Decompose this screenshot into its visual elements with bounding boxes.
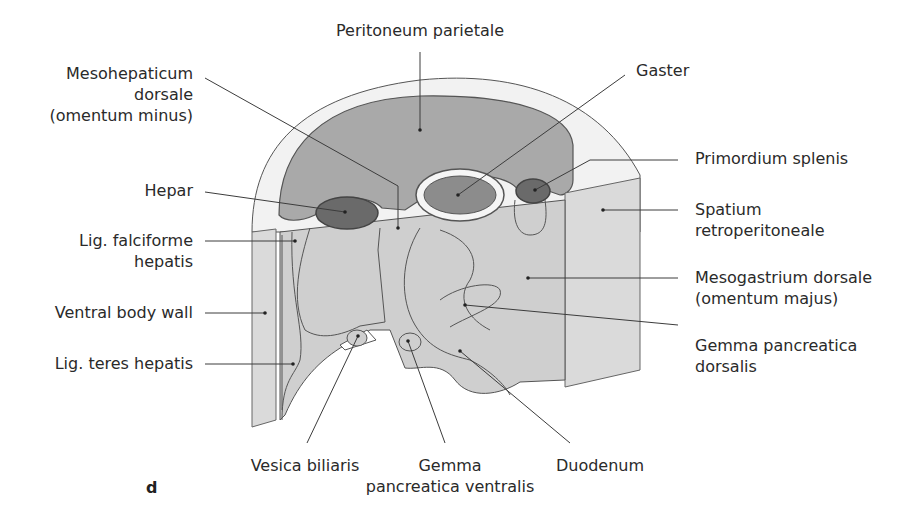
ventral-pancreatic-bud — [399, 333, 421, 351]
label-gemma-ventralis-line1: Gemma — [355, 455, 545, 476]
label-peritoneum-parietale: Peritoneum parietale — [320, 20, 520, 41]
label-spatium-line2: retroperitoneale — [695, 220, 825, 241]
liver — [316, 197, 378, 229]
label-ventral-body-wall: Ventral body wall — [20, 302, 193, 323]
label-gemma-dorsalis-line2: dorsalis — [695, 356, 757, 377]
label-gemma-dorsalis-line1: Gemma pancreatica — [695, 335, 857, 356]
label-duodenum: Duodenum — [545, 455, 655, 476]
stomach-lumen — [424, 176, 496, 214]
label-mesohepaticum-line1: Mesohepaticum — [20, 63, 193, 84]
label-mesohepaticum-line3: (omentum minus) — [20, 105, 193, 126]
panel-letter: d — [146, 478, 157, 497]
label-lig-falciforme-line1: Lig. falciforme — [20, 230, 193, 251]
ventral-body-wall-strip — [252, 229, 276, 427]
label-hepar: Hepar — [20, 180, 193, 201]
label-primordium-splenis: Primordium splenis — [695, 148, 848, 169]
label-mesogastrium-line2: (omentum majus) — [695, 288, 838, 309]
spleen — [516, 179, 550, 203]
label-lig-falciforme-line2: hepatis — [20, 251, 193, 272]
label-gemma-ventralis-line2: pancreatica ventralis — [355, 476, 545, 497]
label-spatium-line1: Spatium — [695, 199, 762, 220]
label-lig-teres-hepatis: Lig. teres hepatis — [20, 353, 193, 374]
label-mesohepaticum-line2: dorsale — [20, 84, 193, 105]
label-mesogastrium-line1: Mesogastrium dorsale — [695, 267, 872, 288]
label-gaster: Gaster — [636, 60, 689, 81]
